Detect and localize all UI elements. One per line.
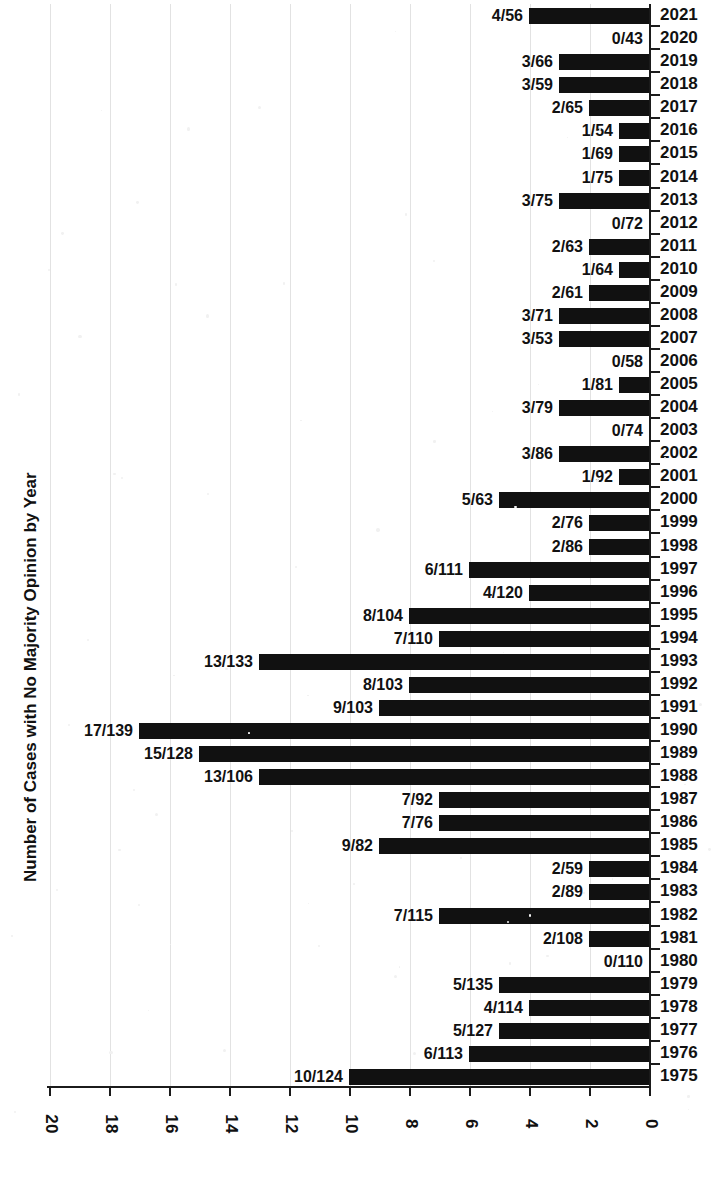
bar-row: 1/92 bbox=[47, 465, 651, 488]
bar-value-label: 3/75 bbox=[522, 191, 553, 211]
bar bbox=[559, 54, 649, 70]
y-axis-tick bbox=[651, 532, 660, 534]
bar-row: 6/113 bbox=[47, 1042, 651, 1065]
x-axis-tick bbox=[289, 1088, 291, 1096]
y-axis-tick bbox=[651, 948, 660, 950]
bar bbox=[619, 170, 649, 186]
bar-value-label: 4/114 bbox=[484, 998, 523, 1018]
bar bbox=[559, 400, 649, 416]
bar-value-label: 2/59 bbox=[552, 859, 583, 879]
bar bbox=[589, 285, 649, 301]
bar-value-label: 8/103 bbox=[363, 675, 403, 695]
bar bbox=[379, 838, 649, 854]
bar-value-label: 2/63 bbox=[552, 237, 583, 257]
bar bbox=[139, 723, 649, 739]
bar-value-label: 0/43 bbox=[612, 29, 643, 49]
y-axis-tick bbox=[651, 1040, 660, 1042]
y-axis-category-label: 2019 bbox=[660, 50, 708, 72]
bar-value-label: 10/124 bbox=[294, 1067, 343, 1087]
bar-value-label: 1/75 bbox=[582, 168, 613, 188]
bar-value-label: 2/76 bbox=[552, 513, 583, 533]
bar-row: 2/76 bbox=[47, 511, 651, 534]
bar-row: 3/71 bbox=[47, 304, 651, 327]
bar-row: 13/133 bbox=[47, 650, 651, 673]
x-axis-tick-label: 20 bbox=[41, 1102, 61, 1146]
x-axis-tick-label: 4 bbox=[521, 1102, 541, 1146]
bar bbox=[619, 262, 649, 278]
scan-speck bbox=[248, 732, 250, 734]
y-axis-tick bbox=[651, 279, 660, 281]
bar-value-label: 13/106 bbox=[204, 767, 253, 787]
y-axis-category-label: 1998 bbox=[660, 535, 708, 557]
y-axis-category-label: 1999 bbox=[660, 511, 708, 533]
bar bbox=[409, 677, 649, 693]
scan-speck bbox=[514, 506, 516, 508]
bar bbox=[439, 631, 649, 647]
y-axis-category-label: 2014 bbox=[660, 166, 708, 188]
chart-axis-title: Number of Cases with No Majority Opinion… bbox=[21, 472, 41, 882]
bar-row: 3/86 bbox=[47, 442, 651, 465]
bar-value-label: 1/92 bbox=[582, 467, 613, 487]
y-axis-tick bbox=[651, 648, 660, 650]
bar-value-label: 6/111 bbox=[425, 560, 463, 580]
y-axis-category-label: 1985 bbox=[660, 834, 708, 856]
y-axis-category-label: 1978 bbox=[660, 996, 708, 1018]
y-axis-tick bbox=[651, 740, 660, 742]
x-axis-tick-label: 6 bbox=[461, 1102, 481, 1146]
bar-row: 0/110 bbox=[47, 950, 651, 973]
scan-speck bbox=[708, 848, 711, 851]
scan-speck bbox=[110, 1051, 113, 1054]
bar-row: 10/124 bbox=[47, 1065, 651, 1088]
scan-speck bbox=[136, 201, 139, 204]
bar-value-label: 4/120 bbox=[483, 583, 523, 603]
y-axis-category-label: 1991 bbox=[660, 696, 708, 718]
bar-row: 3/53 bbox=[47, 327, 651, 350]
y-axis-category-label: 1987 bbox=[660, 788, 708, 810]
bar bbox=[589, 861, 649, 877]
bar-value-label: 7/76 bbox=[402, 813, 433, 833]
bar-row: 0/74 bbox=[47, 419, 651, 442]
y-axis-tick bbox=[651, 832, 660, 834]
bar bbox=[199, 746, 649, 762]
y-axis-category-label: 2021 bbox=[660, 4, 708, 26]
y-axis-category-label: 1975 bbox=[660, 1065, 708, 1087]
bar bbox=[619, 469, 649, 485]
bar bbox=[559, 308, 649, 324]
bar-value-label: 5/127 bbox=[453, 1021, 493, 1041]
bar-value-label: 3/66 bbox=[522, 52, 553, 72]
bar bbox=[259, 654, 649, 670]
x-axis-tick bbox=[169, 1088, 171, 1096]
y-axis-tick bbox=[651, 786, 660, 788]
bar-row: 6/111 bbox=[47, 558, 651, 581]
y-axis-tick bbox=[651, 417, 660, 419]
x-axis-tick-label: 8 bbox=[401, 1102, 421, 1146]
y-axis-category-label: 1992 bbox=[660, 673, 708, 695]
bar-row: 5/135 bbox=[47, 973, 651, 996]
bar bbox=[439, 792, 649, 808]
x-axis-tick-label: 12 bbox=[281, 1102, 301, 1146]
y-axis-tick bbox=[651, 878, 660, 880]
bar-value-label: 2/61 bbox=[552, 283, 583, 303]
bar-row: 3/79 bbox=[47, 396, 651, 419]
bar-value-label: 3/86 bbox=[522, 444, 553, 464]
bar-row: 1/69 bbox=[47, 142, 651, 165]
y-axis-tick bbox=[651, 763, 660, 765]
x-axis-tick bbox=[649, 1088, 651, 1096]
scan-speck bbox=[121, 477, 123, 479]
x-axis-tick bbox=[349, 1088, 351, 1096]
scan-speck bbox=[258, 106, 261, 109]
bar-value-label: 7/115 bbox=[394, 906, 433, 926]
scan-speck bbox=[688, 1109, 689, 1110]
bar-row: 2/86 bbox=[47, 535, 651, 558]
y-axis-category-label: 1997 bbox=[660, 558, 708, 580]
scan-speck bbox=[11, 935, 12, 936]
y-axis-tick bbox=[651, 809, 660, 811]
y-axis-category-label: 2005 bbox=[660, 373, 708, 395]
y-axis-category-label: 1990 bbox=[660, 719, 708, 741]
x-axis-tick bbox=[49, 1088, 51, 1096]
y-axis-tick bbox=[651, 694, 660, 696]
y-axis-tick bbox=[651, 671, 660, 673]
y-axis-tick bbox=[651, 902, 660, 904]
scan-speck bbox=[599, 128, 601, 130]
bar-value-label: 9/82 bbox=[342, 836, 373, 856]
